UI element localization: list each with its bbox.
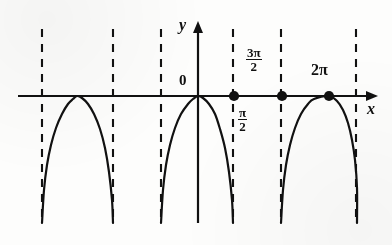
- curve-branch-left: [42, 96, 113, 223]
- y-axis-arrowhead: [193, 21, 203, 33]
- point-3pi-over-2[interactable]: [277, 91, 287, 101]
- y-axis-label: y: [179, 17, 186, 33]
- y-axis: [193, 21, 203, 223]
- pi-over-2-numerator: π: [238, 106, 247, 119]
- two-pi-label: 2π: [311, 62, 328, 78]
- point-2pi[interactable]: [324, 91, 334, 101]
- curve-group: [42, 96, 357, 223]
- x-axis-label: x: [367, 101, 375, 117]
- three-pi-over-2-label: 3π 2: [246, 46, 262, 74]
- curve-branch-right: [281, 96, 357, 223]
- three-pi-over-2-numerator: 3π: [246, 46, 262, 59]
- pi-over-2-denominator: 2: [238, 119, 247, 133]
- origin-label: 0: [179, 73, 187, 88]
- point-pi-over-2[interactable]: [229, 91, 239, 101]
- pi-over-2-label: π 2: [238, 106, 247, 134]
- coordinate-plane-svg: [0, 0, 392, 245]
- graph-figure: y x 0 π 2 3π 2 2π: [0, 0, 392, 245]
- three-pi-over-2-denominator: 2: [246, 59, 262, 73]
